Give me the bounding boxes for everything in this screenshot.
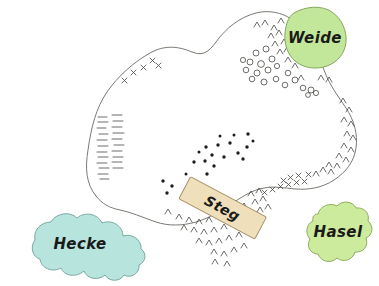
feature-hecke[interactable]: Hecke [32, 214, 145, 280]
feature-hasel[interactable]: Hasel [307, 202, 372, 261]
cross-marks-northwest [122, 58, 161, 83]
stone-dots [161, 132, 254, 194]
reed-dash-marks [97, 115, 124, 179]
feature-weide[interactable]: Weide [285, 7, 346, 68]
weide-label: Weide [288, 29, 342, 47]
pond-sketch-map: Steg Weide Hasel Hecke [0, 0, 379, 286]
map-canvas: Steg Weide Hasel Hecke [0, 0, 379, 286]
cross-marks-southeast [262, 172, 311, 195]
hecke-label: Hecke [53, 235, 106, 253]
hasel-label: Hasel [314, 223, 363, 241]
